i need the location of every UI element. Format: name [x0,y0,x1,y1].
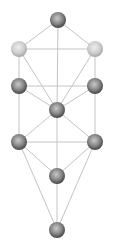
sphere-node-n5 [11,78,27,94]
sphere-node-n7 [87,134,103,150]
edge-n7-n10 [57,142,95,230]
sphere-node-n3 [11,41,27,57]
sphere-node-n2 [87,41,103,57]
edge-n3-n6 [19,49,57,110]
sphere-node-n9 [49,168,65,184]
sphere-node-n1 [50,12,66,28]
sphere-node-n10 [49,222,65,238]
tree-of-life-diagram [0,0,113,252]
sphere-node-n6 [49,102,65,118]
edge-n8-n10 [19,142,57,230]
edge-n2-n6 [57,49,95,110]
sphere-node-n4 [87,78,103,94]
edge-n1-n6 [57,20,58,110]
sphere-node-n8 [11,134,27,150]
edges-layer [19,20,95,230]
